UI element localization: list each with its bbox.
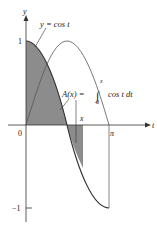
- shaded-area-negative: [67, 125, 83, 168]
- x-marker-label: x: [79, 114, 84, 123]
- integral-upper-limit: x: [99, 78, 103, 84]
- t-axis-label: t: [152, 121, 155, 130]
- tick-label-one: 1: [18, 37, 22, 46]
- integral-diagram: y t 1 −1 0 π y = cos t A(x) = ∫ x 0 cos …: [0, 0, 157, 233]
- area-label: A(x) =: [61, 89, 85, 99]
- integrand: cos t dt: [108, 89, 133, 99]
- y-axis-label: y: [22, 7, 27, 16]
- curve-label: y = cos t: [39, 19, 70, 29]
- shaded-area-positive: [26, 41, 67, 125]
- t-axis-arrow-icon: [145, 123, 151, 128]
- pi-label: π: [110, 129, 115, 138]
- origin-label: 0: [18, 129, 22, 138]
- tick-label-minus-one: −1: [12, 204, 21, 213]
- curve-label-leader: [35, 28, 46, 47]
- integral-lower-limit: 0: [96, 99, 99, 105]
